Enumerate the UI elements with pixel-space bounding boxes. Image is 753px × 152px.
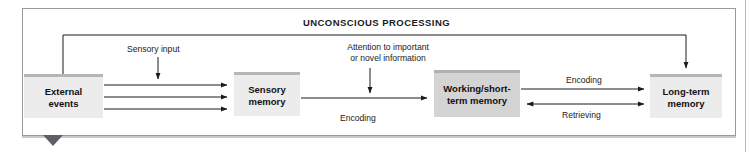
box-working-short-term-memory: Working/short- term memory: [434, 70, 520, 117]
label-attention-line1: Attention to important: [347, 42, 429, 52]
panel-tab-triangle: [43, 135, 63, 146]
label-encoding-right: Encoding: [566, 75, 602, 86]
label-attention-line2: or novel information: [350, 53, 425, 63]
diagram-heading: UNCONSCIOUS PROCESSING: [0, 17, 753, 28]
box-external-events-line2: events: [48, 98, 78, 109]
box-external-events-line1: External: [45, 86, 83, 97]
box-sensory-memory-line1: Sensory: [248, 84, 286, 95]
box-sensory-memory-line2: memory: [249, 96, 286, 107]
box-working-memory-line2: term memory: [447, 95, 507, 106]
label-sensory-input: Sensory input: [127, 44, 180, 55]
panel-bottom-shadow: [22, 136, 736, 138]
box-external-events: External events: [24, 74, 103, 118]
box-long-term-memory-line1: Long-term: [663, 86, 710, 97]
memory-process-diagram: UNCONSCIOUS PROCESSING: [0, 0, 753, 152]
box-working-memory-line1: Working/short-: [443, 83, 510, 94]
label-attention: Attention to important or novel informat…: [318, 42, 458, 64]
label-encoding-middle: Encoding: [340, 113, 376, 124]
box-long-term-memory: Long-term memory: [650, 74, 722, 118]
box-long-term-memory-line2: memory: [668, 98, 705, 109]
label-retrieving: Retrieving: [562, 110, 601, 121]
box-sensory-memory: Sensory memory: [234, 72, 300, 116]
